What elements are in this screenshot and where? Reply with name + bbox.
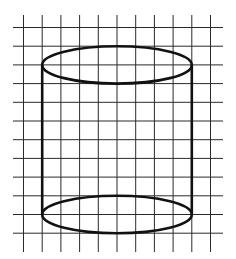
cylinder-diagram	[0, 0, 236, 259]
